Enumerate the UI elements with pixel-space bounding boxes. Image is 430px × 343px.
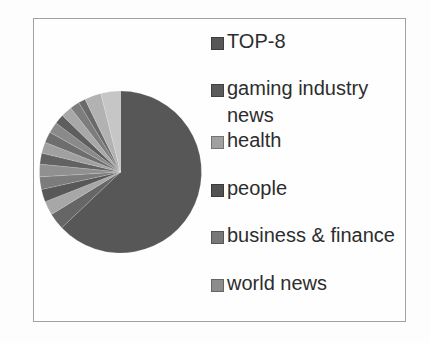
legend-swatch-icon	[211, 279, 224, 292]
legend-swatch-icon	[211, 136, 224, 149]
legend-label: gaming industry news	[227, 75, 403, 129]
legend-item-world-news: world news	[211, 270, 403, 297]
legend-label: health	[227, 127, 403, 154]
legend-item-business-finance: business & finance	[211, 222, 403, 249]
legend-swatch-icon	[211, 231, 224, 244]
legend-label: world news	[227, 270, 403, 297]
legend-item-gaming-industry-news: gaming industry news	[211, 75, 403, 129]
legend-swatch-icon	[211, 84, 224, 97]
legend-item-health: health	[211, 127, 403, 154]
legend-item-top-8: TOP-8	[211, 28, 403, 55]
legend-item-people: people	[211, 175, 403, 202]
legend-label: TOP-8	[227, 28, 403, 55]
legend-swatch-icon	[211, 184, 224, 197]
legend: TOP-8 gaming industry news health people…	[0, 0, 430, 343]
legend-label: business & finance	[227, 222, 403, 249]
legend-swatch-icon	[211, 37, 224, 50]
legend-label: people	[227, 175, 403, 202]
figure-page: TOP-8 gaming industry news health people…	[0, 0, 430, 343]
